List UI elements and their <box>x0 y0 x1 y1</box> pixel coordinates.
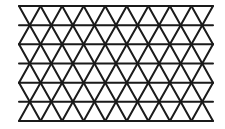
diagonal-line <box>116 6 127 25</box>
diagonal-line <box>62 44 73 63</box>
diagonal-line <box>116 44 127 63</box>
diagonal-line <box>30 44 41 63</box>
diagonal-line <box>127 6 138 25</box>
diagonal-line <box>159 25 170 44</box>
diagonal-line <box>19 6 30 25</box>
diagonal-line <box>62 64 73 83</box>
diagonal-line <box>202 44 213 63</box>
diagonal-line <box>30 102 41 121</box>
diagonal-line <box>191 44 202 63</box>
diagonal-line <box>127 44 138 63</box>
diagonal-line <box>116 83 127 102</box>
diagonal-line <box>84 64 95 83</box>
diagonal-line <box>51 83 62 102</box>
diagonal-line <box>138 25 149 44</box>
diagonal-line <box>94 44 105 63</box>
diagonal-line <box>148 6 159 25</box>
diagonal-line <box>51 102 62 121</box>
diagonal-line <box>105 44 116 63</box>
diagonal-line <box>191 6 202 25</box>
diagonal-line <box>170 44 181 63</box>
diagonal-line <box>94 25 105 44</box>
diagonal-line <box>138 6 149 25</box>
diagonal-line <box>105 25 116 44</box>
diagonal-line <box>116 102 127 121</box>
diagonal-line <box>73 25 84 44</box>
diagonal-line <box>41 102 52 121</box>
diagonal-line <box>181 6 192 25</box>
diagonal-line <box>170 102 181 121</box>
diagonal-line <box>181 25 192 44</box>
diagonal-line <box>148 83 159 102</box>
diagonal-line <box>191 25 202 44</box>
diagonal-line <box>51 44 62 63</box>
diagonal-line <box>170 83 181 102</box>
diagonal-line <box>127 102 138 121</box>
diagonal-line <box>41 6 52 25</box>
diagonal-line <box>94 102 105 121</box>
diagonal-line <box>148 102 159 121</box>
diagonal-line <box>41 44 52 63</box>
diagonal-line <box>73 83 84 102</box>
diagonal-line <box>62 102 73 121</box>
diagonal-line <box>170 6 181 25</box>
diagonal-line <box>41 25 52 44</box>
diagonal-line <box>138 64 149 83</box>
diagonal-line <box>62 6 73 25</box>
diagonal-line <box>41 83 52 102</box>
diagonal-line <box>138 44 149 63</box>
diagonal-line <box>159 64 170 83</box>
diagonal-line <box>73 102 84 121</box>
diagonal-line <box>51 6 62 25</box>
diagonal-line <box>105 102 116 121</box>
diagonal-line <box>30 83 41 102</box>
diagonal-line <box>170 64 181 83</box>
diagonal-line <box>202 83 213 102</box>
diagonal-line <box>202 25 213 44</box>
diagonal-line <box>94 64 105 83</box>
diagonal-line <box>62 83 73 102</box>
diagonal-line <box>181 102 192 121</box>
diagonal-line <box>105 83 116 102</box>
diagonal-line <box>159 102 170 121</box>
diagonal-line <box>19 102 30 121</box>
diagonal-line <box>30 25 41 44</box>
triangular-lattice <box>0 0 225 129</box>
diagonal-line <box>73 44 84 63</box>
diagonal-line <box>138 102 149 121</box>
diagonal-line <box>138 83 149 102</box>
diagonal-line <box>51 64 62 83</box>
diagonal-line <box>62 25 73 44</box>
diagonal-line <box>84 44 95 63</box>
diagonal-line <box>19 25 30 44</box>
diagonal-line <box>181 44 192 63</box>
diagonal-line <box>105 6 116 25</box>
diagonal-line <box>148 44 159 63</box>
diagonal-line <box>30 6 41 25</box>
diagonal-line <box>94 6 105 25</box>
diagonal-line <box>73 64 84 83</box>
diagonal-line <box>191 64 202 83</box>
diagonal-line <box>159 83 170 102</box>
diagonal-line <box>191 83 202 102</box>
diagonal-line <box>116 25 127 44</box>
diagonal-line <box>127 83 138 102</box>
diagonal-line <box>84 6 95 25</box>
diagonal-line <box>202 64 213 83</box>
diagonal-line <box>84 102 95 121</box>
diagonal-line <box>181 64 192 83</box>
diagonal-line <box>19 83 30 102</box>
diagonal-line <box>159 44 170 63</box>
diagonal-line <box>19 64 30 83</box>
diagonal-line <box>148 25 159 44</box>
diagonal-line <box>159 6 170 25</box>
diagonal-line <box>19 44 30 63</box>
diagonal-line <box>84 83 95 102</box>
diagonal-line <box>116 64 127 83</box>
diagonal-line <box>105 64 116 83</box>
diagonal-line <box>84 25 95 44</box>
diagonal-line <box>51 25 62 44</box>
diagonal-line <box>202 102 213 121</box>
diagonal-line <box>127 64 138 83</box>
diagonal-line <box>170 25 181 44</box>
